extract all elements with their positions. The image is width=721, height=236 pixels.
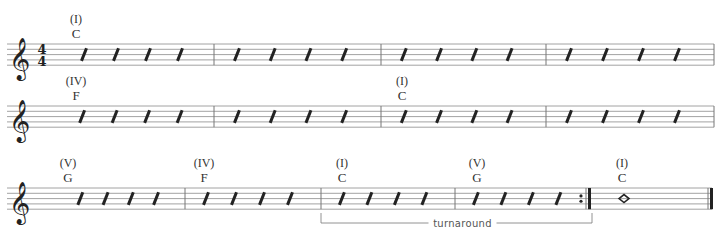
- music-score: 𝄞44(I)C𝄞(IV)F(I)C𝄞(V)G(IV)F(I)C(V)G(I)Ct…: [0, 0, 721, 236]
- chord-symbol: (V)G: [469, 156, 486, 185]
- staff-system: 𝄞44(I)C: [7, 12, 714, 81]
- chord-name: G: [472, 170, 481, 185]
- svg-text:4: 4: [37, 54, 46, 69]
- treble-clef-icon: 𝄞: [9, 38, 30, 81]
- chord-name: C: [338, 170, 347, 185]
- measure: (I)C: [396, 74, 512, 123]
- time-signature: 44: [37, 42, 46, 69]
- chord-symbol: (IV)F: [194, 156, 215, 185]
- chord-name: C: [72, 26, 81, 41]
- chord-name: C: [618, 170, 627, 185]
- measure: (I)C: [616, 156, 629, 203]
- roman-numeral: (IV): [66, 74, 87, 88]
- turnaround-label: turnaround: [433, 218, 492, 229]
- chord-symbol: (I)C: [616, 156, 628, 185]
- treble-clef-icon: 𝄞: [9, 182, 30, 225]
- measure: (I)C: [70, 12, 183, 61]
- measure: (I)C: [336, 156, 427, 205]
- measure: (IV)F: [194, 156, 293, 205]
- roman-numeral: (I): [616, 156, 628, 170]
- roman-numeral: (V): [469, 156, 486, 170]
- roman-numeral: (V): [60, 156, 77, 170]
- chord-name: F: [200, 170, 207, 185]
- measure: (IV)F: [66, 74, 182, 123]
- staff-system: 𝄞(IV)F(I)C: [7, 74, 714, 143]
- treble-clef-icon: 𝄞: [9, 100, 30, 143]
- roman-numeral: (I): [396, 74, 408, 88]
- roman-numeral: (I): [70, 12, 82, 26]
- chord-symbol: (IV)F: [66, 74, 87, 103]
- chord-symbol: (I)C: [396, 74, 408, 103]
- roman-numeral: (I): [336, 156, 348, 170]
- final-barline-thick: [710, 188, 713, 209]
- measure: (V)G: [60, 156, 159, 205]
- chord-name: G: [63, 170, 72, 185]
- chord-symbol: (V)G: [60, 156, 77, 185]
- staff-system: 𝄞(V)G(IV)F(I)C(V)G(I)C: [7, 156, 713, 225]
- turnaround-bracket: turnaround: [321, 213, 592, 229]
- chord-symbol: (I)C: [336, 156, 348, 185]
- chord-name: F: [72, 88, 79, 103]
- chord-name: C: [398, 88, 407, 103]
- measure: (V)G: [469, 156, 561, 205]
- roman-numeral: (IV): [194, 156, 215, 170]
- chord-symbol: (I)C: [70, 12, 82, 41]
